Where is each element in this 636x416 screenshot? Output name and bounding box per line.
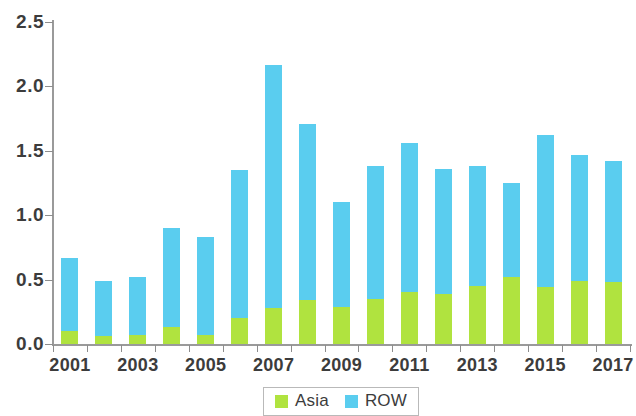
x-axis-tick <box>257 345 258 352</box>
bar-2002 <box>95 22 112 344</box>
x-axis-tick <box>562 345 563 352</box>
x-axis-tick <box>291 345 292 352</box>
y-axis-tick-label: 2.5 <box>0 11 44 33</box>
y-axis-tick-label: 1.5 <box>0 140 44 162</box>
bar-2009 <box>333 22 350 344</box>
bar-2010 <box>367 22 384 344</box>
bar-2005 <box>197 22 214 344</box>
x-axis-tick <box>426 345 427 352</box>
y-axis-tick <box>45 280 53 281</box>
x-axis-tick-label: 2009 <box>307 355 377 376</box>
x-axis-tick-label: 2017 <box>578 355 636 376</box>
y-axis-tick-label: 2.0 <box>0 75 44 97</box>
bar-segment-row <box>333 202 350 306</box>
x-axis-tick <box>121 345 122 352</box>
bar-segment-asia <box>231 318 248 344</box>
legend-label-asia: Asia <box>295 391 329 411</box>
y-axis-tick-label: 0.0 <box>0 333 44 355</box>
y-axis-tick-label: 1.0 <box>0 204 44 226</box>
bar-segment-asia <box>605 282 622 344</box>
bar-segment-row <box>61 258 78 331</box>
bar-segment-row <box>537 135 554 287</box>
x-axis-tick <box>460 345 461 352</box>
bar-2014 <box>503 22 520 344</box>
chart-legend: Asia ROW <box>263 387 419 416</box>
x-axis-tick-label: 2003 <box>103 355 173 376</box>
y-axis-tick <box>45 86 53 87</box>
y-axis-tick <box>45 344 53 345</box>
legend-swatch-row-icon <box>345 395 358 408</box>
legend-item-asia: Asia <box>275 391 329 411</box>
bar-2004 <box>163 22 180 344</box>
bar-segment-asia <box>265 308 282 344</box>
bar-segment-row <box>571 155 588 281</box>
bar-2015 <box>537 22 554 344</box>
x-axis-tick <box>189 345 190 352</box>
x-axis-tick <box>325 345 326 352</box>
x-axis-tick <box>630 345 631 352</box>
bar-2008 <box>299 22 316 344</box>
bar-segment-row <box>605 161 622 282</box>
x-axis-tick <box>53 345 54 352</box>
x-axis-tick <box>223 345 224 352</box>
x-axis-tick <box>392 345 393 352</box>
bar-2016 <box>571 22 588 344</box>
bar-segment-row <box>265 65 282 308</box>
bar-segment-asia <box>95 336 112 344</box>
bar-segment-row <box>197 237 214 335</box>
legend-label-row: ROW <box>365 391 407 411</box>
bar-segment-asia <box>401 292 418 344</box>
bar-segment-row <box>435 169 452 294</box>
bar-segment-asia <box>197 335 214 344</box>
bar-2012 <box>435 22 452 344</box>
bar-segment-row <box>469 166 486 286</box>
y-axis-tick <box>45 22 53 23</box>
bar-2003 <box>129 22 146 344</box>
y-axis-tick-label: 0.5 <box>0 269 44 291</box>
bar-segment-asia <box>469 286 486 344</box>
bar-segment-asia <box>299 300 316 344</box>
bar-segment-asia <box>61 331 78 344</box>
x-axis-tick <box>87 345 88 352</box>
bar-segment-row <box>503 183 520 277</box>
bar-segment-row <box>299 124 316 300</box>
bar-segment-asia <box>503 277 520 344</box>
plot-area <box>53 22 630 344</box>
y-axis-tick <box>45 215 53 216</box>
x-axis-tick-label: 2005 <box>171 355 241 376</box>
x-axis-tick-label: 2015 <box>510 355 580 376</box>
bar-segment-row <box>163 228 180 327</box>
x-axis-tick-label: 2001 <box>35 355 105 376</box>
bar-segment-row <box>231 170 248 318</box>
x-axis-tick-label: 2013 <box>442 355 512 376</box>
bar-segment-asia <box>163 327 180 344</box>
bar-segment-asia <box>537 287 554 344</box>
bar-2017 <box>605 22 622 344</box>
bar-segment-row <box>401 143 418 292</box>
bar-2001 <box>61 22 78 344</box>
x-axis-line <box>52 344 632 346</box>
bar-2007 <box>265 22 282 344</box>
x-axis-tick <box>596 345 597 352</box>
bar-segment-row <box>367 166 384 299</box>
bar-segment-asia <box>367 299 384 344</box>
y-axis-tick <box>45 151 53 152</box>
legend-swatch-asia-icon <box>275 395 288 408</box>
x-axis-tick <box>494 345 495 352</box>
bar-segment-asia <box>571 281 588 344</box>
bar-2013 <box>469 22 486 344</box>
bar-segment-asia <box>129 335 146 344</box>
bar-segment-row <box>95 281 112 336</box>
bar-segment-row <box>129 277 146 335</box>
x-axis-tick-label: 2011 <box>374 355 444 376</box>
legend-item-row: ROW <box>345 391 407 411</box>
x-axis-tick <box>528 345 529 352</box>
x-axis-tick-label: 2007 <box>239 355 309 376</box>
x-axis-tick <box>155 345 156 352</box>
bar-segment-asia <box>333 307 350 344</box>
bar-2011 <box>401 22 418 344</box>
x-axis-tick <box>358 345 359 352</box>
bar-2006 <box>231 22 248 344</box>
bar-segment-asia <box>435 294 452 344</box>
